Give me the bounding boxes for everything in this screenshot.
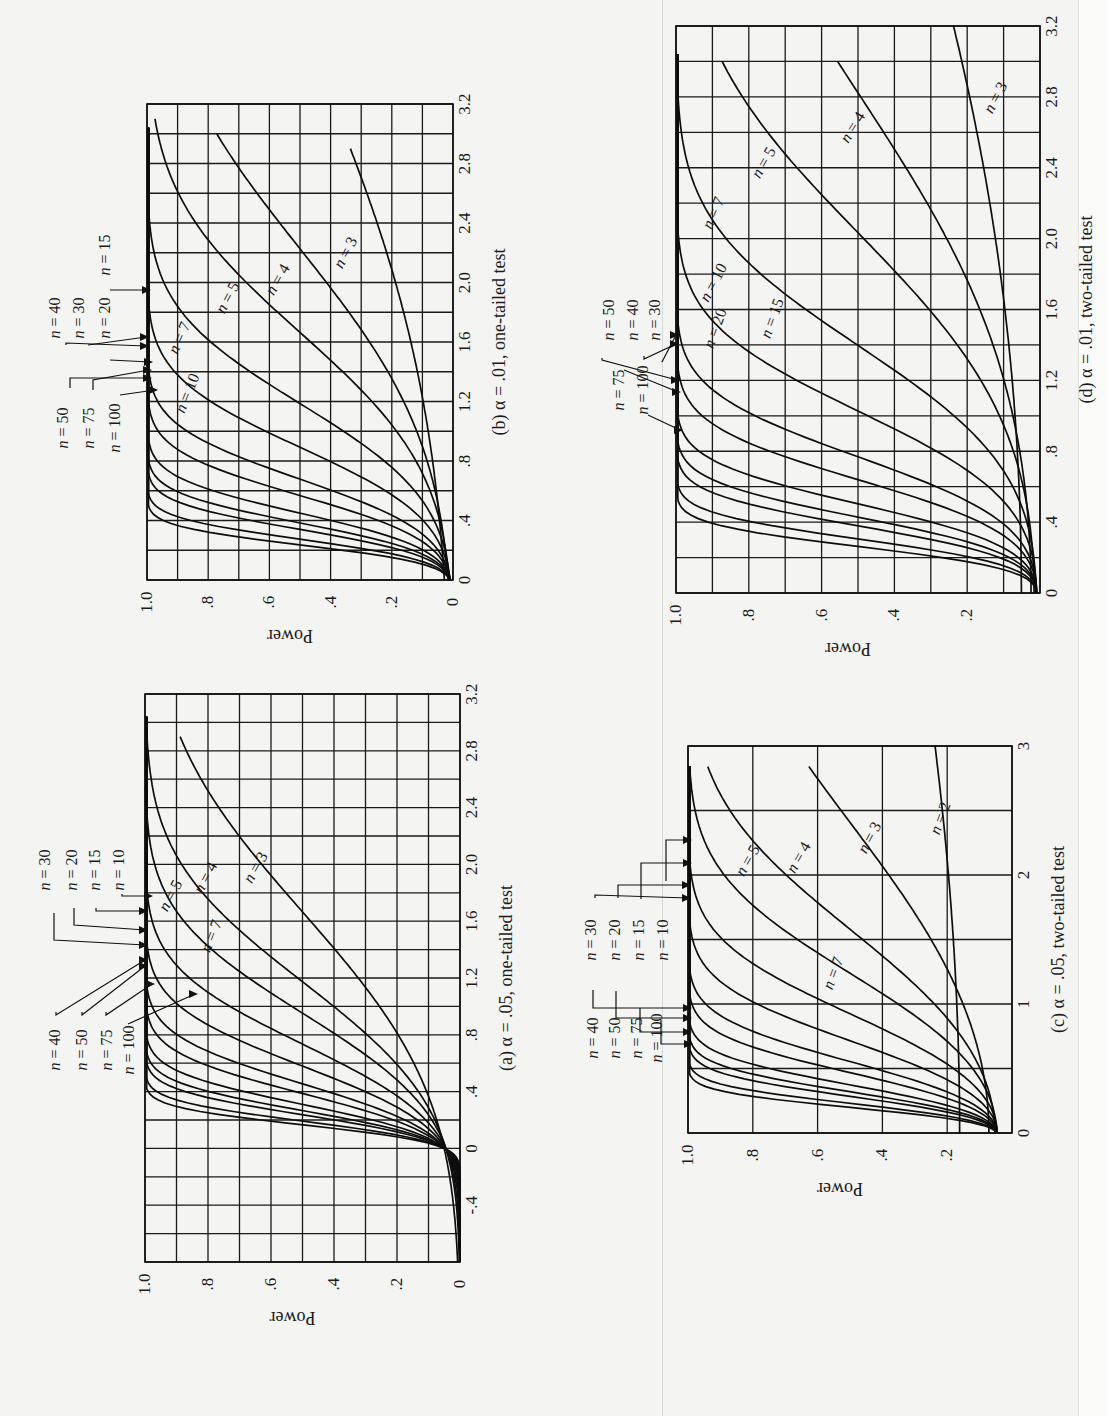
curve-label: n = 15 [96,234,113,275]
y-tick-label: .4 [884,608,903,621]
curve-label: n = 30 [36,849,53,890]
x-tick-label: 2.0 [1042,228,1061,249]
curve-label: n = 4 [783,839,814,876]
x-tick-label: 2.0 [455,272,474,293]
power-curve-n5 [690,767,997,1133]
power-curve-n20 [690,767,997,1133]
curve-label: n = 50 [54,407,71,448]
curve-label: n = 30 [646,299,663,340]
power-curve-n100 [147,717,460,1262]
power-curve-n10 [690,767,998,1133]
x-tick-label: 1.2 [1042,370,1061,391]
x-tick-label: 2.8 [462,740,481,761]
curve-label: n = 40 [46,1029,63,1070]
curve-label: n = 100 [106,403,123,452]
curve-label: n = 50 [606,1017,623,1058]
chart-panel-b: 0.4.81.21.62.02.42.83.20.2.4.6.81.0Power… [46,93,510,646]
power-curve-n50 [147,717,460,1262]
curve-label: n = 4 [836,109,868,146]
x-tick-label: .4 [1042,515,1061,528]
power-curve-n75 [690,767,996,1133]
curve-label: n = 15 [757,296,787,340]
power-curve-n5 [147,717,460,1262]
panel-caption: (a) α = .05, one-tailed test [496,885,517,1071]
y-tick-label: .2 [937,1149,956,1162]
curve-label: n = 30 [70,297,87,338]
curve-label: n = 20 [63,849,80,890]
power-curves [147,717,460,1262]
curve-label: n = 20 [700,306,730,350]
x-tick-label: 1 [1014,1000,1033,1009]
curve-label: n = 10 [696,260,730,304]
y-axis-label: Power [267,626,313,646]
x-tick-label: 0 [1042,589,1061,598]
x-tick-label: .4 [462,1085,481,1098]
y-tick-label: .6 [261,1278,280,1291]
curve-label: n = 10 [654,919,671,960]
y-tick-label: .2 [957,609,976,622]
x-tick-label: 1.6 [455,331,474,352]
chart-panel-d: 0.4.81.21.62.02.42.83.2.2.4.6.81.0Power(… [600,15,1097,659]
y-tick-label: .6 [808,1149,827,1162]
y-tick-label: .8 [743,1149,762,1162]
x-tick-label: 2 [1014,871,1033,880]
x-tick-label: .8 [455,455,474,468]
y-tick-label: .4 [872,1148,891,1161]
x-tick-label: .8 [1042,445,1061,458]
y-tick-label: .6 [259,596,278,609]
power-curve-n40 [147,717,460,1262]
curve-label: n = 3 [240,849,271,886]
curve-label: n = 5 [212,279,243,316]
x-tick-label: 2.0 [462,854,481,875]
curve-label: n = 7 [197,917,225,954]
y-tick-label: .8 [198,596,217,609]
y-tick-label: 0 [450,1280,469,1289]
curve-label: n = 100 [120,1025,137,1074]
curve-label: n = 50 [73,1029,90,1070]
curve-label: n = 7 [698,194,727,231]
curve-label: n = 10 [110,849,127,890]
curve-label: n = 2 [926,800,953,837]
power-curves [149,119,451,580]
power-curve-n100 [690,767,996,1133]
curve-label: n = 3 [854,819,885,856]
x-tick-label: 2.4 [462,796,481,818]
power-curve-n5 [155,119,449,580]
x-tick-label: 1.2 [462,967,481,988]
curve-label: n = 75 [80,407,97,448]
y-tick-label: 1.0 [666,604,685,625]
curve-label: n = 40 [46,297,63,338]
x-tick-label: 3 [1014,742,1033,751]
panel-caption: (c) α = .05, two-tailed test [1048,846,1069,1033]
y-tick-label: 1.0 [678,1144,697,1165]
panel-caption: (d) α = .01, two-tailed test [1076,215,1097,403]
x-tick-label: 0 [462,1144,481,1153]
y-tick-label: .2 [387,1278,406,1291]
grid [145,694,460,1262]
power-curve-n7 [147,717,460,1262]
x-tick-label: 3.2 [462,683,481,704]
power-curve-n7 [690,767,998,1133]
x-tick-label: 2.8 [455,153,474,174]
x-tick-label: 2.4 [455,212,474,234]
power-curve-n50 [690,767,997,1133]
power-curve-n30 [149,128,451,580]
x-tick-label: 1.6 [1042,299,1061,320]
power-curve-n15 [147,717,460,1262]
y-tick-label: .4 [324,1277,343,1290]
power-curve-n4 [708,767,995,1133]
power-curve-n3 [809,767,989,1133]
power-curve-n20 [147,717,460,1262]
x-tick-label: 2.8 [1042,86,1061,107]
chart-panel-a: -.40.4.81.21.62.02.42.83.20.2.4.6.81.0Po… [36,683,517,1328]
power-curve-n3 [180,737,458,1262]
curve-label: n = 50 [600,299,617,340]
y-axis-label: Power [270,1308,316,1328]
curve-label: n = 100 [648,1013,665,1062]
x-tick-label: 0 [455,576,474,585]
y-tick-label: 1.0 [135,1273,154,1294]
x-tick-label: 2.4 [1042,157,1061,179]
y-tick-label: .4 [321,595,340,608]
